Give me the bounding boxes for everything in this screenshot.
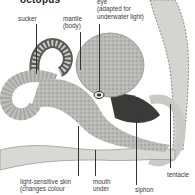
- label-skin: light-sensitive skin (changes colour: [20, 178, 71, 193]
- leader-eye: [99, 24, 100, 92]
- label-mouth: mouth under: [93, 178, 111, 193]
- leader-sucker: [36, 24, 37, 74]
- label-sucker: sucker: [18, 15, 37, 22]
- label-mantle: mantle (body): [63, 15, 82, 30]
- leader-siphon: [136, 117, 137, 185]
- leader-mantle: [80, 32, 81, 70]
- label-tentacle: tentacle: [167, 171, 189, 178]
- leader-tentacle: [170, 104, 171, 168]
- mantle-body: [76, 33, 144, 97]
- diagram-title: octopus: [20, 0, 60, 5]
- label-eye: eye (adapted for underwater light): [97, 0, 144, 20]
- leader-mouth: [95, 150, 96, 176]
- octopus-illustration: [0, 0, 195, 195]
- octopus-diagram: octopus sucker mantle (body) eye (adapte…: [0, 0, 195, 195]
- leader-skin: [78, 126, 79, 176]
- label-siphon: siphon: [135, 186, 154, 193]
